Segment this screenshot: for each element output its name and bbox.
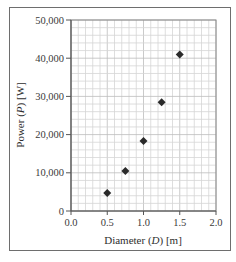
x-axis-label: Diameter (D) [m]: [104, 234, 182, 247]
y-tick-label: 10,000: [35, 167, 64, 178]
y-tick-label: 50,000: [35, 15, 64, 26]
data-point-diamond: [140, 137, 148, 145]
y-axis-ticks: 010,00020,00030,00040,00050,000: [35, 15, 71, 217]
y-axis-label: Power (P) [W]: [14, 82, 27, 147]
y-tick-label: 40,000: [35, 53, 64, 64]
data-point-diamond: [176, 50, 184, 58]
y-tick-label: 30,000: [35, 91, 64, 102]
data-point-diamond: [158, 98, 166, 106]
y-tick-label: 0: [59, 206, 64, 217]
x-tick-label: 1.5: [173, 217, 186, 228]
y-tick-label: 20,000: [35, 129, 64, 140]
x-tick-label: 0.5: [101, 217, 114, 228]
x-tick-label: 0.0: [64, 217, 77, 228]
chart-grid: [71, 20, 216, 211]
scatter-chart: 0.00.51.01.52.0 010,00020,00030,00040,00…: [0, 0, 236, 262]
x-tick-label: 1.0: [137, 217, 150, 228]
x-axis-ticks: 0.00.51.01.52.0: [64, 211, 222, 228]
x-tick-label: 2.0: [209, 217, 222, 228]
data-point-diamond: [121, 167, 129, 175]
